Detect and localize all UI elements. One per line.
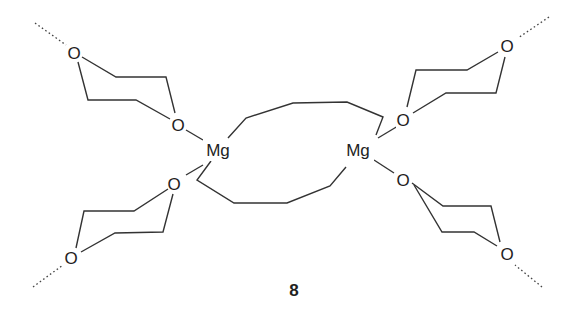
bottom-carbon-chain (197, 161, 346, 203)
mg-left-label: Mg (206, 141, 230, 160)
o-bottom-right-outer: O (500, 245, 513, 264)
molecule-diagram: Mg Mg O O O O O O O O 8 (0, 0, 577, 311)
o-top-left-inner: O (171, 116, 184, 135)
compound-number: 8 (289, 281, 298, 300)
top-carbon-chain (228, 102, 383, 138)
mg-right-label: Mg (346, 141, 370, 160)
o-bottom-right-inner: O (396, 171, 409, 190)
o-bottom-left-inner: O (167, 175, 180, 194)
o-top-right-outer: O (500, 37, 513, 56)
o-top-left-outer: O (67, 44, 80, 63)
o-top-right-inner: O (396, 111, 409, 130)
o-bottom-left-outer: O (64, 249, 77, 268)
